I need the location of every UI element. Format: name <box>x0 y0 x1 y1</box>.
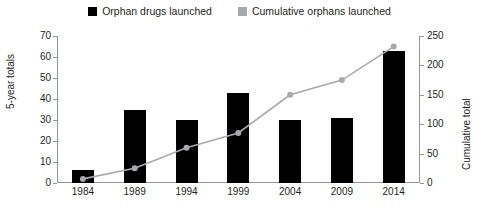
legend-label-bar: Orphan drugs launched <box>102 6 212 17</box>
x-label-1999: 1999 <box>227 186 249 197</box>
y-tick-right-250 <box>420 36 424 37</box>
cumulative-point-1994 <box>184 145 190 151</box>
x-label-2014: 2014 <box>383 186 405 197</box>
legend-swatch-line <box>238 7 247 16</box>
cumulative-line-series <box>57 36 420 183</box>
y-label-left-60: 60 <box>40 52 51 62</box>
y-tick-right-150 <box>420 95 424 96</box>
y-tick-right-200 <box>420 65 424 66</box>
y-tick-right-50 <box>420 154 424 155</box>
y-label-right-0: 0 <box>427 178 433 188</box>
y-label-left-0: 0 <box>45 178 51 188</box>
y-label-right-50: 50 <box>427 149 438 159</box>
cumulative-point-1984 <box>80 176 86 182</box>
x-label-2009: 2009 <box>331 186 353 197</box>
chart-container: Orphan drugs launched Cumulative orphans… <box>0 0 479 211</box>
y-label-left-70: 70 <box>40 31 51 41</box>
cumulative-point-1989 <box>132 165 138 171</box>
chart-legend: Orphan drugs launched Cumulative orphans… <box>0 6 479 17</box>
y-label-right-250: 250 <box>427 31 444 41</box>
cumulative-line-path <box>83 47 394 179</box>
y-label-left-40: 40 <box>40 94 51 104</box>
x-label-2004: 2004 <box>279 186 301 197</box>
y-label-right-100: 100 <box>427 119 444 129</box>
y-label-left-50: 50 <box>40 73 51 83</box>
x-label-1994: 1994 <box>175 186 197 197</box>
legend-swatch-bar <box>88 7 97 16</box>
y-tick-left-0 <box>53 183 57 184</box>
legend-label-line: Cumulative orphans launched <box>252 6 391 17</box>
cumulative-point-2009 <box>339 77 345 83</box>
y-axis-title-left: 5-year totals <box>6 54 16 109</box>
y-label-left-10: 10 <box>40 157 51 167</box>
y-label-right-150: 150 <box>427 90 444 100</box>
y-tick-right-100 <box>420 124 424 125</box>
x-label-1989: 1989 <box>124 186 146 197</box>
cumulative-point-2004 <box>287 92 293 98</box>
y-label-left-20: 20 <box>40 136 51 146</box>
y-tick-right-0 <box>420 183 424 184</box>
y-axis-title-right: Cumulative total <box>462 98 472 170</box>
plot-area: 70 60 50 40 30 20 10 0 250 200 150 100 5… <box>57 36 420 183</box>
cumulative-point-2014 <box>391 44 397 50</box>
y-label-right-200: 200 <box>427 60 444 70</box>
cumulative-point-1999 <box>235 130 241 136</box>
legend-item-cumulative-orphans-launched: Cumulative orphans launched <box>238 6 391 17</box>
y-label-left-30: 30 <box>40 115 51 125</box>
x-label-1984: 1984 <box>72 186 94 197</box>
legend-item-orphan-drugs-launched: Orphan drugs launched <box>88 6 212 17</box>
